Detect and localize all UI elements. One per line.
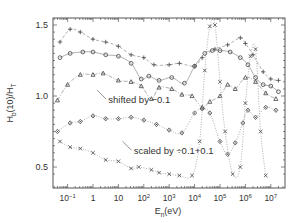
x-tick-label: 102 — [137, 193, 150, 204]
y-tick-label: 0.5 — [35, 162, 48, 172]
x-axis-label: En(eV) — [155, 206, 182, 218]
chart-figure: 10−1110102103104105106107 0.51.01.5 shif… — [0, 0, 291, 223]
x-tick-label: 106 — [239, 193, 252, 204]
x-tick-label: 10 — [114, 193, 124, 203]
y-tick-label: 1.5 — [35, 20, 48, 30]
x-tick-label: 105 — [214, 193, 227, 204]
x-tick-label: 103 — [163, 193, 176, 204]
x-tick-label: 10−1 — [59, 193, 76, 204]
y-axis-label: Hb(10)/HT — [5, 83, 17, 122]
annotation-shifted: shifted by −0.1 — [108, 94, 170, 105]
x-tick-label: 107 — [264, 193, 277, 204]
series-plus — [58, 27, 281, 83]
x-tick-label: 104 — [188, 193, 201, 204]
annotation-scaled: scaled by ÷0.1+0.1 — [134, 145, 214, 156]
x-axis-ticks: 10−1110102103104105106107 — [54, 18, 283, 203]
y-tick-label: 1.0 — [35, 91, 48, 101]
x-tick-label: 1 — [91, 193, 96, 203]
